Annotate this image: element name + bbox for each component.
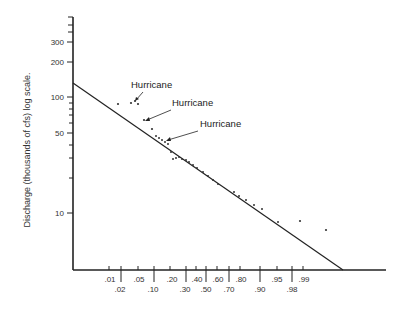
x-tick-30: .30 (179, 285, 191, 294)
hurricane-annotation-1: Hurricane (131, 79, 172, 101)
x-tick-80: .80 (235, 275, 247, 284)
y-tick-100: 100 (51, 93, 65, 102)
x-tick-90: .90 (254, 285, 266, 294)
x-tick-01: .01 (104, 275, 116, 284)
x-tick-70: .70 (223, 285, 235, 294)
x-tick-98: .98 (286, 285, 298, 294)
flood-frequency-chart: 300 200 100 50 10 Discharge (thousands o… (0, 0, 403, 310)
annotation-label: Hurricane (200, 118, 241, 129)
x-tick-05: .05 (133, 275, 145, 284)
annotation-label: Hurricane (172, 97, 213, 108)
y-ticks (67, 17, 73, 213)
y-tick-labels: 300 200 100 50 10 (51, 38, 65, 218)
y-tick-10: 10 (55, 209, 64, 218)
arrow-icon (145, 117, 150, 121)
x-tick-20: .20 (166, 275, 178, 284)
arrow-icon (166, 137, 171, 141)
x-tick-labels: .01 .05 .20 .40 .60 .80 .95 .99 .02 .10 … (104, 275, 310, 294)
y-axis-label: Discharge (thousands of cfs) log scale. (22, 72, 32, 227)
annotation-label: Hurricane (131, 79, 172, 90)
x-tick-95: .95 (271, 275, 283, 284)
y-tick-300: 300 (51, 38, 65, 47)
hurricane-annotation-3: Hurricane (166, 118, 241, 141)
y-tick-200: 200 (51, 58, 65, 67)
x-tick-40: .40 (191, 275, 203, 284)
x-tick-02: .02 (114, 285, 126, 294)
x-tick-60: .60 (212, 275, 224, 284)
x-tick-99: .99 (298, 275, 310, 284)
x-tick-10: .10 (147, 285, 159, 294)
y-tick-50: 50 (55, 129, 64, 138)
x-tick-50: .50 (200, 285, 212, 294)
